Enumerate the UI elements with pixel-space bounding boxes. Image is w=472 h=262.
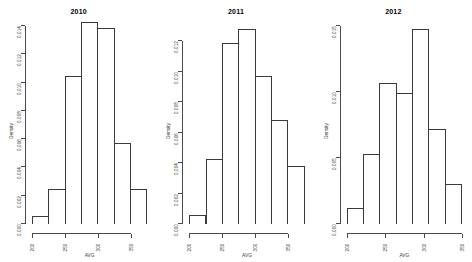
x-axis-line <box>347 233 462 234</box>
histogram-bar <box>130 189 147 224</box>
x-axis-tick <box>255 234 256 238</box>
x-axis-tick-label: 250 <box>62 244 67 252</box>
panel-title: 2011 <box>157 8 314 15</box>
x-axis-tick <box>131 234 132 238</box>
y-axis-label: Density <box>9 123 14 139</box>
histogram-bars <box>32 26 147 224</box>
x-axis-tick <box>189 234 190 238</box>
y-axis-tick-label: 0.000 <box>174 224 179 236</box>
x-axis-line <box>32 233 131 234</box>
histogram-bar <box>363 154 380 224</box>
y-axis-tick-label: 0.004 <box>174 163 179 175</box>
histogram-bar <box>189 215 206 224</box>
histogram-bar <box>412 29 429 224</box>
histogram-bars <box>189 26 304 224</box>
histogram-bar <box>114 143 131 224</box>
histogram-bar <box>287 166 304 224</box>
y-axis-tick: 0.015 <box>336 25 340 26</box>
x-axis-tick-label: 250 <box>220 244 225 252</box>
histogram-figure: 2010Density0.0000.0020.0040.0060.0080.01… <box>0 0 472 262</box>
histogram-bar <box>379 83 396 224</box>
x-axis-tick <box>65 234 66 238</box>
y-axis-tick: 0.004 <box>178 162 182 163</box>
x-axis-tick-label: 300 <box>95 244 100 252</box>
y-axis-tick: 0.004 <box>21 166 25 167</box>
histogram-panel-2011: 2011Density0.0000.0020.0040.0060.0080.01… <box>157 0 314 262</box>
y-axis-tick: 0.010 <box>178 71 182 72</box>
y-axis-tick-label: 0.008 <box>174 102 179 114</box>
x-axis-tick-label: 200 <box>344 244 349 252</box>
histogram-bar <box>347 208 364 224</box>
x-axis-tick <box>222 234 223 238</box>
histogram-bar <box>255 76 272 225</box>
y-axis-tick-label: 0.000 <box>331 224 336 236</box>
x-axis-tick <box>462 234 463 238</box>
histogram-bar <box>65 76 82 224</box>
y-axis-tick-label: 0.005 <box>331 158 336 170</box>
y-axis-tick: 0.006 <box>21 138 25 139</box>
histogram-bar <box>222 43 239 224</box>
histogram-bar <box>97 28 114 224</box>
y-axis-tick-label: 0.010 <box>331 92 336 104</box>
y-axis-tick-label: 0.015 <box>331 26 336 38</box>
histogram-bar <box>428 129 445 224</box>
y-axis-tick: 0.002 <box>21 195 25 196</box>
x-axis-tick <box>98 234 99 238</box>
histogram-bar <box>396 93 413 224</box>
y-axis-line <box>182 41 183 224</box>
y-axis-tick: 0.002 <box>178 193 182 194</box>
y-axis-line <box>25 26 26 224</box>
histogram-bar <box>81 22 98 224</box>
histogram-bar <box>32 216 49 224</box>
y-axis-tick-label: 0.000 <box>17 224 22 236</box>
y-axis-tick: 0.012 <box>178 40 182 41</box>
y-axis-tick: 0.014 <box>21 25 25 26</box>
y-axis-tick-label: 0.008 <box>17 111 22 123</box>
x-axis-tick <box>32 234 33 238</box>
histogram-panel-2012: 2012Density0.0000.0050.0100.015200250300… <box>315 0 472 262</box>
plot-area: 0.0000.0050.0100.015200250300350AVG <box>347 26 462 224</box>
plot-area: 0.0000.0020.0040.0060.0080.0100.01220025… <box>189 26 304 224</box>
x-axis-line <box>189 233 288 234</box>
y-axis-line <box>340 26 341 224</box>
histogram-bars <box>347 26 462 224</box>
y-axis-tick-label: 0.002 <box>17 196 22 208</box>
y-axis-label: Density <box>323 123 328 139</box>
y-axis-tick: 0.006 <box>178 132 182 133</box>
x-axis-tick-label: 200 <box>187 244 192 252</box>
x-axis-tick <box>424 234 425 238</box>
x-axis-label: AVG <box>32 253 147 258</box>
y-axis-tick-label: 0.010 <box>174 72 179 84</box>
panel-title: 2012 <box>315 8 472 15</box>
y-axis-tick: 0.010 <box>21 82 25 83</box>
y-axis-tick-label: 0.012 <box>174 41 179 53</box>
y-axis-tick-label: 0.002 <box>174 194 179 206</box>
y-axis-tick: 0.000 <box>178 223 182 224</box>
histogram-bar <box>206 159 223 224</box>
y-axis-tick: 0.010 <box>336 91 340 92</box>
y-axis-tick-label: 0.014 <box>17 26 22 38</box>
x-axis-tick-label: 350 <box>459 244 464 252</box>
y-axis-tick-label: 0.010 <box>17 83 22 95</box>
histogram-bar <box>48 189 65 224</box>
histogram-panel-2010: 2010Density0.0000.0020.0040.0060.0080.01… <box>0 0 157 262</box>
x-axis-tick <box>288 234 289 238</box>
x-axis-tick-label: 200 <box>30 244 35 252</box>
plot-area: 0.0000.0020.0040.0060.0080.0100.0120.014… <box>32 26 147 224</box>
y-axis-label: Density <box>166 123 171 139</box>
x-axis-tick-label: 250 <box>383 244 388 252</box>
y-axis-tick: 0.008 <box>21 110 25 111</box>
y-axis-tick-label: 0.004 <box>17 167 22 179</box>
y-axis-tick: 0.008 <box>178 101 182 102</box>
y-axis-tick: 0.000 <box>336 223 340 224</box>
panel-title: 2010 <box>0 8 157 15</box>
x-axis-tick-label: 350 <box>128 244 133 252</box>
y-axis-tick-label: 0.006 <box>17 139 22 151</box>
y-axis-tick: 0.012 <box>21 53 25 54</box>
histogram-bar <box>238 29 255 224</box>
histogram-bar <box>271 120 288 224</box>
x-axis-tick <box>385 234 386 238</box>
x-axis-tick-label: 300 <box>253 244 258 252</box>
x-axis-tick-label: 350 <box>286 244 291 252</box>
y-axis-tick: 0.005 <box>336 157 340 158</box>
